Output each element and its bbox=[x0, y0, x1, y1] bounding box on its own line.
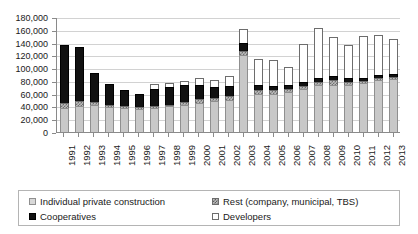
bars-layer bbox=[57, 18, 400, 132]
bar-1994 bbox=[105, 84, 114, 132]
bar-2004 bbox=[254, 59, 263, 132]
bar-1993 bbox=[90, 73, 99, 132]
segment-developers bbox=[195, 78, 204, 85]
segment-individual-private-construction bbox=[135, 109, 144, 132]
segment-developers bbox=[359, 36, 368, 78]
segment-individual-private-construction bbox=[344, 85, 353, 132]
y-axis-tick-label: 20,000 bbox=[0, 116, 48, 125]
y-axis-tick-label: 120,000 bbox=[0, 52, 48, 61]
y-axis-tick-mark bbox=[52, 56, 56, 57]
x-axis-tick-mark bbox=[228, 133, 229, 137]
legend-label: Developers bbox=[223, 211, 271, 222]
x-axis-tick-mark bbox=[213, 133, 214, 137]
x-axis-tick-label: 2002 bbox=[232, 145, 242, 166]
segment-cooperatives bbox=[135, 94, 144, 107]
segment-individual-private-construction bbox=[90, 105, 99, 132]
segment-developers bbox=[389, 39, 398, 74]
x-axis-tick-label: 2012 bbox=[382, 145, 392, 166]
x-axis-tick-mark bbox=[378, 133, 379, 137]
segment-cooperatives bbox=[210, 87, 219, 98]
x-axis-tick-mark bbox=[258, 133, 259, 137]
x-axis-tick-mark bbox=[393, 133, 394, 137]
segment-individual-private-construction bbox=[269, 94, 278, 132]
bar-2007 bbox=[299, 44, 308, 132]
x-axis-tick-label: 2001 bbox=[217, 145, 227, 166]
segment-developers bbox=[329, 37, 338, 76]
x-axis-tick-label: 1992 bbox=[82, 145, 92, 166]
segment-cooperatives bbox=[75, 47, 84, 101]
bar-1997 bbox=[150, 84, 159, 132]
segment-developers bbox=[374, 35, 383, 75]
x-axis-tick-mark bbox=[78, 133, 79, 137]
segment-individual-private-construction bbox=[239, 55, 248, 132]
bar-1992 bbox=[75, 47, 84, 132]
x-axis-tick-label: 2003 bbox=[247, 145, 257, 166]
legend-item-cooperatives: Cooperatives bbox=[29, 211, 96, 222]
bar-2005 bbox=[269, 60, 278, 132]
legend-item-developers: Developers bbox=[212, 211, 271, 222]
bar-2003 bbox=[239, 29, 248, 132]
bar-2002 bbox=[225, 76, 234, 132]
segment-developers bbox=[344, 45, 353, 79]
segment-cooperatives bbox=[195, 85, 204, 99]
y-axis-tick-label: 100,000 bbox=[0, 65, 48, 74]
x-axis-tick-label: 2008 bbox=[322, 145, 332, 166]
y-axis-tick-label: 40,000 bbox=[0, 103, 48, 112]
segment-individual-private-construction bbox=[75, 106, 84, 132]
segment-developers bbox=[269, 60, 278, 86]
bar-1995 bbox=[120, 90, 129, 132]
black-swatch-icon bbox=[29, 213, 36, 220]
legend-item-rest: Rest (company, municipal, TBS) bbox=[212, 196, 358, 207]
segment-individual-private-construction bbox=[374, 80, 383, 132]
x-axis-tick-mark bbox=[183, 133, 184, 137]
y-axis-tick-mark bbox=[52, 18, 56, 19]
x-axis-tick-label: 1998 bbox=[172, 145, 182, 166]
segment-cooperatives bbox=[120, 90, 129, 106]
x-axis-tick-label: 1994 bbox=[112, 145, 122, 166]
y-axis-tick-mark bbox=[52, 44, 56, 45]
checkered-gray-swatch-icon bbox=[212, 198, 219, 205]
x-axis-tick-mark bbox=[123, 133, 124, 137]
x-axis-tick-mark bbox=[363, 133, 364, 137]
legend-label: Individual private construction bbox=[40, 196, 165, 207]
segment-individual-private-construction bbox=[359, 83, 368, 132]
x-axis-tick-label: 2007 bbox=[307, 145, 317, 166]
x-axis-tick-label: 2006 bbox=[292, 145, 302, 166]
y-axis-tick-mark bbox=[52, 107, 56, 108]
x-axis-tick-mark bbox=[138, 133, 139, 137]
segment-cooperatives bbox=[239, 43, 248, 51]
segment-cooperatives bbox=[60, 45, 69, 103]
segment-cooperatives bbox=[165, 87, 174, 104]
plot-area bbox=[56, 18, 400, 133]
x-axis-tick-label: 2013 bbox=[397, 145, 407, 166]
bar-1996 bbox=[135, 94, 144, 132]
chart-legend: Individual private construction Rest (co… bbox=[18, 190, 400, 226]
x-axis-tick-mark bbox=[243, 133, 244, 137]
segment-developers bbox=[299, 44, 308, 82]
y-axis-tick-label: 0 bbox=[0, 129, 48, 138]
x-axis-tick-label: 1997 bbox=[157, 145, 167, 166]
segment-individual-private-construction bbox=[150, 108, 159, 132]
x-axis-tick-mark bbox=[333, 133, 334, 137]
segment-cooperatives bbox=[90, 73, 99, 102]
y-axis-tick-label: 140,000 bbox=[0, 40, 48, 49]
segment-individual-private-construction bbox=[165, 106, 174, 132]
x-axis-tick-mark bbox=[273, 133, 274, 137]
segment-cooperatives bbox=[225, 86, 234, 96]
segment-individual-private-construction bbox=[180, 105, 189, 132]
segment-cooperatives bbox=[180, 85, 189, 102]
legend-label: Rest (company, municipal, TBS) bbox=[223, 196, 358, 207]
bar-2011 bbox=[359, 36, 368, 132]
y-axis-tick-label: 160,000 bbox=[0, 27, 48, 36]
x-axis-tick-label: 1999 bbox=[187, 145, 197, 166]
x-axis-tick-label: 2010 bbox=[352, 145, 362, 166]
x-axis-tick-mark bbox=[168, 133, 169, 137]
y-axis-tick-label: 180,000 bbox=[0, 14, 48, 23]
bar-1991 bbox=[60, 45, 69, 133]
x-axis-tick-label: 1991 bbox=[67, 145, 77, 166]
y-axis-tick-mark bbox=[52, 31, 56, 32]
segment-developers bbox=[314, 28, 323, 78]
y-axis-tick-label: 60,000 bbox=[0, 91, 48, 100]
segment-developers bbox=[254, 59, 263, 85]
bar-2001 bbox=[210, 80, 219, 132]
